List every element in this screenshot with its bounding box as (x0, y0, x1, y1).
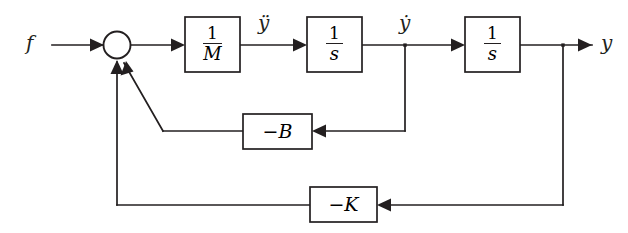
block-label-plant-gain: 1 M (185, 17, 240, 72)
branch-point-position (561, 43, 564, 46)
integrator-1-denominator: s (326, 44, 343, 63)
block-label-spring-gain: −K (310, 187, 377, 222)
arrowhead-into-sum-bottom (111, 60, 124, 74)
arrowhead-into-plant (171, 39, 185, 52)
integrator-1-numerator: 1 (326, 25, 343, 44)
label-position-output: y (601, 33, 612, 53)
block-label-integrator-2: 1 s (465, 17, 520, 72)
branch-point-velocity (403, 43, 406, 46)
wire-damping-diagonal-to-sum (124, 63, 163, 131)
plant-gain-denominator: M (203, 44, 221, 63)
arrowhead-output (578, 39, 592, 52)
arrowhead-into-integrator1 (293, 39, 307, 52)
integrator-2-denominator: s (484, 44, 501, 63)
label-acceleration: ÿ (258, 13, 269, 33)
label-velocity: ẏ (399, 13, 410, 33)
integrator-2-numerator: 1 (484, 25, 501, 44)
block-label-integrator-1: 1 s (307, 17, 362, 72)
arrowhead-into-integrator2 (451, 39, 465, 52)
summing-junction[interactable] (104, 32, 131, 59)
label-input-force: f (26, 33, 33, 53)
arrowhead-into-sum-diagonal (121, 61, 134, 76)
block-label-damping-gain: −B (243, 114, 312, 149)
arrowhead-into-spring (377, 199, 391, 212)
spring-gain-text: −K (328, 195, 358, 214)
block-diagram: f ÿ ẏ y 1 M 1 s 1 s −B −K (0, 0, 628, 233)
arrowhead-into-damping (312, 125, 326, 138)
plant-gain-numerator: 1 (203, 25, 221, 44)
damping-gain-text: −B (263, 122, 293, 141)
arrowhead-into-sum-left (90, 39, 104, 52)
